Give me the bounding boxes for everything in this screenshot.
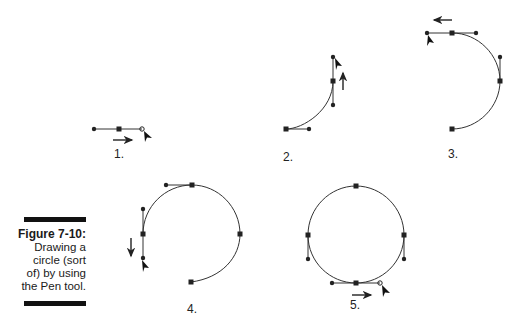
- cursor-arrow-icon: [144, 131, 152, 142]
- handle-dot: [498, 55, 502, 59]
- caption-top-rule: [24, 217, 86, 222]
- handle-dot: [92, 127, 96, 131]
- anchor-point: [306, 233, 311, 238]
- figure-number: Figure 7-10:: [10, 228, 86, 241]
- cursor-arrow-icon: [335, 58, 342, 70]
- step-label-4: 4.: [187, 302, 197, 316]
- handle-endpoint: [331, 55, 335, 59]
- figure-caption: Figure 7-10: Drawing a circle (sort of) …: [10, 217, 86, 306]
- handle-endpoint: [141, 256, 145, 260]
- step-5-figure: [306, 184, 407, 298]
- caption-line: the Pen tool.: [10, 280, 86, 293]
- caption-line: circle (sort: [10, 254, 86, 267]
- handle-dot: [331, 103, 335, 107]
- step-label-1: 1.: [114, 147, 124, 161]
- anchor-point: [331, 79, 336, 84]
- handle-dot: [306, 257, 310, 261]
- caption-line: Drawing a: [10, 241, 86, 254]
- handle-dot: [307, 127, 311, 131]
- cursor-arrow-icon: [142, 260, 149, 272]
- anchor-point: [498, 79, 503, 84]
- anchor-point: [354, 184, 359, 189]
- anchor-point: [141, 232, 146, 237]
- caption-bottom-rule: [24, 301, 86, 306]
- handle-dot: [402, 257, 406, 261]
- handle-dot: [474, 31, 478, 35]
- anchor-point: [189, 280, 194, 285]
- step-2-figure: [284, 55, 344, 132]
- anchor-point: [450, 31, 455, 36]
- step-3-figure: [425, 20, 503, 132]
- step-label-5: 5.: [350, 298, 360, 312]
- anchor-point: [284, 127, 289, 132]
- anchor-point: [402, 233, 407, 238]
- step-4-figure: [131, 183, 243, 285]
- handle-endpoint: [425, 31, 429, 35]
- anchor-point: [354, 281, 359, 286]
- step-label-3: 3.: [448, 147, 458, 161]
- anchor-point: [238, 232, 243, 237]
- cursor-arrow-icon: [382, 285, 390, 297]
- step-label-2: 2.: [283, 150, 293, 164]
- handle-dot: [141, 207, 145, 211]
- anchor-point: [190, 183, 195, 188]
- anchor-point: [450, 127, 455, 132]
- step-1-figure: [92, 127, 152, 143]
- cursor-arrow-icon: [427, 35, 434, 46]
- handle-dot: [164, 183, 168, 187]
- anchor-point: [117, 127, 122, 132]
- caption-line: of) by using: [10, 267, 86, 280]
- handle-dot: [330, 281, 334, 285]
